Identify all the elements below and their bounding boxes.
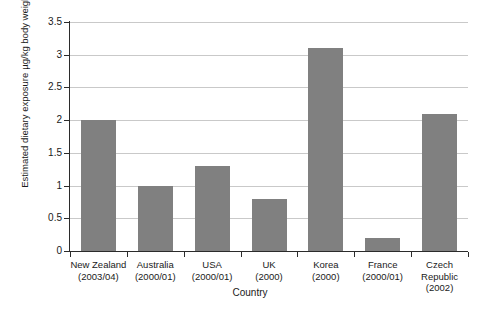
y-axis-tick [64,251,69,252]
gridline [70,55,468,56]
plot-area [70,22,468,251]
y-axis-tick-label: 0.5 [22,213,62,223]
x-axis-category-label: New Zealand(2003/04) [70,259,127,282]
x-axis-category-label: UK(2000) [241,259,298,282]
y-axis-tick [64,120,69,121]
x-axis-category-year: (2003/04) [70,271,127,283]
x-axis-tick [70,252,71,257]
y-axis-tick-label: 2 [22,115,62,125]
x-axis-category-label: Czech Republic(2002) [411,259,468,294]
y-axis-tick-label: 1.5 [22,148,62,158]
y-axis-tick-label: 3 [22,50,62,60]
bar [422,114,457,251]
y-axis-tick [64,153,69,154]
gridline [70,22,468,23]
x-axis-line [69,251,468,252]
bar [252,199,287,251]
y-axis-tick [64,55,69,56]
x-axis-category-year: (2000/01) [354,271,411,283]
bar [308,48,343,251]
bar [365,238,400,251]
x-axis-category-year: (2000/01) [127,271,184,283]
x-axis-category-year: (2002) [411,282,468,294]
y-axis-tick-label: 0 [22,246,62,256]
x-axis-tick [468,252,469,257]
x-axis-category-year: (2000) [297,271,354,283]
y-axis-tick [64,22,69,23]
x-axis-category-name: UK [241,259,298,271]
x-axis-category-label: France(2000/01) [354,259,411,282]
y-axis-tick-label: 1 [22,181,62,191]
y-axis-tick [64,186,69,187]
x-axis-category-label: Australia(2000/01) [127,259,184,282]
x-axis-category-year: (2000) [241,271,298,283]
x-axis-category-name: Australia [127,259,184,271]
x-axis-category-name: Korea [297,259,354,271]
x-axis-tick [184,252,185,257]
x-axis-category-label: Korea(2000) [297,259,354,282]
gridline [70,87,468,88]
bar [138,186,173,251]
bar [195,166,230,251]
bar [81,120,116,251]
y-axis-tick [64,218,69,219]
y-axis-tick-labels: 00.511.522.533.5 [16,0,62,313]
x-axis-category-name: USA [184,259,241,271]
y-axis-tick [64,87,69,88]
x-axis-tick [297,252,298,257]
x-axis-title: Country [210,287,290,298]
y-axis-tick-label: 3.5 [22,17,62,27]
x-axis-category-name: New Zealand [70,259,127,271]
x-axis-tick [354,252,355,257]
x-axis-tick [411,252,412,257]
x-axis-tick [127,252,128,257]
x-axis-category-label: USA(2000/01) [184,259,241,282]
gridline [70,153,468,154]
bar-chart: Estimated dietary exposure µg/kg body we… [0,0,480,313]
gridline [70,120,468,121]
x-axis-tick [241,252,242,257]
y-axis-tick-label: 2.5 [22,82,62,92]
x-axis-category-name: Czech Republic [411,259,468,282]
x-axis-category-name: France [354,259,411,271]
gridline [70,186,468,187]
x-axis-category-year: (2000/01) [184,271,241,283]
